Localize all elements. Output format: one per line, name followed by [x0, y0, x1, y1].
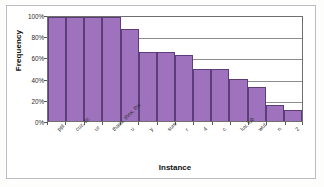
bar	[157, 52, 175, 121]
x-label-cell: cuz, bc	[65, 126, 83, 166]
x-tick-label: r	[184, 127, 190, 133]
x-tick-label: y	[148, 126, 154, 132]
plot-area	[47, 16, 303, 122]
x-tick-label: n	[276, 126, 282, 132]
x-label-cell: y	[138, 126, 156, 166]
x-label-cell: 4	[193, 126, 211, 166]
x-tick-mark	[193, 122, 194, 125]
x-label-cell: r	[175, 126, 193, 166]
x-tick-label: 2	[294, 126, 300, 132]
bar	[175, 55, 193, 121]
bar-series	[48, 17, 302, 121]
x-label-cell: sum	[157, 126, 175, 166]
bar	[48, 17, 66, 121]
x-tick-label: 4	[202, 126, 208, 132]
x-tick-mark	[65, 122, 66, 125]
x-label-cell: wut	[248, 126, 266, 166]
bar	[229, 79, 247, 121]
bar	[84, 17, 102, 121]
x-tick-mark	[302, 122, 303, 125]
x-label-cell: u	[120, 126, 138, 166]
x-axis-title: Instance	[47, 163, 303, 172]
x-tick-mark	[212, 122, 213, 125]
bar	[266, 105, 284, 121]
bar	[66, 17, 84, 121]
x-tick-mark	[138, 122, 139, 125]
bar-chart: Frequency 100% 80% 60% 40% 20% 0%	[7, 6, 317, 180]
bar	[139, 52, 157, 121]
x-tick-mark	[230, 122, 231, 125]
bar	[211, 69, 229, 121]
x-tick-label: c	[221, 126, 227, 132]
figure-frame: Frequency 100% 80% 60% 40% 20% 0%	[6, 5, 316, 179]
x-label-cell: luv, lub	[230, 126, 248, 166]
x-label-cell: thanx, thnx, thx	[102, 126, 120, 166]
y-axis-tick-marks	[7, 16, 47, 122]
x-tick-label: u	[129, 126, 135, 132]
x-axis-tick-labels: pplcuz, bcurthanx, thnx, thxuysumr4cluv,…	[47, 126, 303, 166]
x-label-cell: ur	[84, 126, 102, 166]
x-label-cell: n	[266, 126, 284, 166]
x-tick-mark	[157, 122, 158, 125]
x-label-cell: ppl	[47, 126, 65, 166]
bar	[284, 110, 302, 121]
scanned-page-background: Frequency 100% 80% 60% 40% 20% 0%	[0, 0, 324, 187]
x-tick-mark	[47, 122, 48, 125]
x-tick-mark	[102, 122, 103, 125]
x-tick-mark	[285, 122, 286, 125]
x-label-cell: 2	[285, 126, 303, 166]
bar	[193, 69, 211, 121]
x-label-cell: c	[212, 126, 230, 166]
bar	[102, 17, 120, 121]
x-tick-label: ur	[93, 125, 101, 133]
